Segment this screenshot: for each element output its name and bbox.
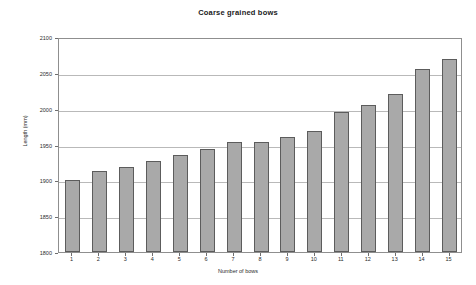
bar <box>442 59 457 253</box>
bar <box>146 161 161 252</box>
x-tick-label: 14 <box>411 256 433 262</box>
y-tick-label: 1800 <box>22 250 52 256</box>
x-tick-mark <box>206 253 207 256</box>
chart-title: Coarse grained bows <box>0 8 476 17</box>
x-tick-mark <box>422 253 423 256</box>
bar <box>307 131 322 252</box>
bar <box>227 142 242 252</box>
bar <box>92 171 107 252</box>
x-tick-mark <box>71 253 72 256</box>
bar <box>361 105 376 252</box>
x-tick-label: 15 <box>438 256 460 262</box>
x-tick-mark <box>98 253 99 256</box>
x-tick-label: 10 <box>303 256 325 262</box>
x-tick-label: 7 <box>222 256 244 262</box>
bar <box>173 155 188 252</box>
bar <box>65 180 80 252</box>
x-tick-mark <box>368 253 369 256</box>
x-tick-mark <box>260 253 261 256</box>
x-tick-label: 11 <box>330 256 352 262</box>
x-axis-title: Number of bows <box>0 268 476 274</box>
x-tick-label: 5 <box>168 256 190 262</box>
x-tick-label: 13 <box>384 256 406 262</box>
x-tick-label: 4 <box>141 256 163 262</box>
x-tick-label: 6 <box>195 256 217 262</box>
x-tick-mark <box>125 253 126 256</box>
bar-series <box>59 39 461 252</box>
bar <box>415 69 430 252</box>
bar <box>388 94 403 252</box>
x-tick-mark <box>395 253 396 256</box>
x-tick-label: 2 <box>87 256 109 262</box>
x-tick-label: 1 <box>60 256 82 262</box>
x-tick-mark <box>233 253 234 256</box>
y-tick-label: 1950 <box>22 143 52 149</box>
x-tick-mark <box>152 253 153 256</box>
y-tick-label: 2000 <box>22 107 52 113</box>
x-tick-label: 3 <box>114 256 136 262</box>
x-tick-label: 12 <box>357 256 379 262</box>
x-tick-mark <box>341 253 342 256</box>
x-tick-label: 8 <box>249 256 271 262</box>
x-tick-label: 9 <box>276 256 298 262</box>
y-tick-label: 1850 <box>22 214 52 220</box>
x-tick-mark <box>314 253 315 256</box>
y-tick-mark <box>55 253 58 254</box>
bar <box>254 142 269 252</box>
bar <box>200 149 215 252</box>
plot-area <box>58 38 462 253</box>
bar <box>334 112 349 252</box>
y-tick-label: 1900 <box>22 178 52 184</box>
y-tick-label: 2100 <box>22 35 52 41</box>
x-tick-mark <box>287 253 288 256</box>
bar <box>119 167 134 252</box>
x-tick-mark <box>179 253 180 256</box>
chart-container: Coarse grained bows Length (mm) Number o… <box>0 0 476 285</box>
y-tick-label: 2050 <box>22 71 52 77</box>
x-tick-mark <box>449 253 450 256</box>
bar <box>280 137 295 252</box>
